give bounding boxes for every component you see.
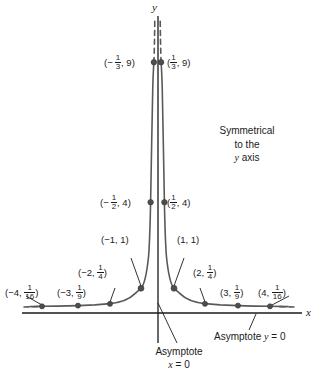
- point-label-pos3: (3, 19): [220, 284, 243, 301]
- data-point-posthird[interactable]: [158, 59, 164, 65]
- asymptote-x-word: Asymptote: [155, 346, 202, 357]
- minus-sign: −: [81, 267, 87, 278]
- data-point-neg3[interactable]: [75, 303, 80, 308]
- fraction-one-half: 12: [170, 194, 176, 211]
- symmetry-note: Symmetrical to the y axis: [206, 124, 288, 165]
- point-label-neg4: (−4, 116): [5, 284, 38, 301]
- graph-plot-area: #plot path{fill:none;stroke:#595959;stro…: [0, 0, 322, 378]
- figure-canvas: #plot path{fill:none;stroke:#595959;stro…: [0, 0, 322, 378]
- fraction-one-half: 12: [111, 194, 117, 211]
- fraction-one-fourth: 14: [207, 264, 213, 281]
- minus-sign: −: [8, 287, 14, 298]
- asymptote-x-label: Asymptote x = 0: [144, 345, 214, 371]
- point-label-poshalf: (12, 4): [167, 194, 190, 211]
- leader-line-asymptote-x: [158, 303, 177, 343]
- data-point-pos2[interactable]: [202, 301, 207, 306]
- leader-line-neg1: [131, 258, 141, 286]
- fraction-one-ninth: 19: [76, 284, 82, 301]
- minus-sign: −: [60, 287, 66, 298]
- leader-line-asymptote-y: [249, 314, 256, 330]
- point-label-pos1: (1, 1): [177, 234, 199, 245]
- data-point-neghalf[interactable]: [148, 199, 154, 205]
- fraction-one-third: 13: [170, 54, 176, 71]
- leader-line-neg2: [110, 288, 115, 302]
- data-point-pos3[interactable]: [235, 303, 240, 308]
- symmetry-note-line2: to the: [234, 139, 259, 150]
- point-label-pos4: (4, 116): [258, 284, 286, 301]
- minus-sign: −: [103, 197, 109, 208]
- symmetry-note-line1: Symmetrical: [219, 125, 274, 136]
- asymptote-y-label: Asymptote y = 0: [214, 330, 285, 343]
- point-label-pos2: (2, 14): [193, 264, 216, 281]
- x-axis-label: x: [306, 306, 311, 319]
- point-label-posthird: (13, 9): [167, 54, 190, 71]
- y-axis-label: y: [152, 1, 157, 14]
- asymptote-y-word: Asymptote: [214, 331, 264, 342]
- point-label-neg2: (−2, 14): [78, 264, 107, 281]
- fraction-one-ninth: 19: [234, 284, 240, 301]
- leader-line-pos2: [200, 288, 205, 302]
- minus-sign: −: [107, 57, 113, 68]
- point-label-neg1: (−1, 1): [101, 234, 129, 245]
- symmetry-note-line3-suffix: axis: [239, 152, 260, 163]
- data-point-neg4[interactable]: [39, 304, 44, 309]
- fraction-one-sixteenth: 116: [24, 284, 35, 301]
- point-label-neg3: (−3, 19): [57, 284, 86, 301]
- fraction-one-sixteenth: 116: [272, 284, 283, 301]
- point-label-negthird: (− 13, 9): [104, 54, 135, 71]
- fraction-one-third: 13: [115, 54, 121, 71]
- asymptote-x-value: = 0: [173, 359, 190, 370]
- data-point-neg1[interactable]: [138, 285, 144, 291]
- leader-line-pos1: [174, 258, 184, 286]
- data-point-pos4[interactable]: [267, 304, 272, 309]
- data-point-neg2[interactable]: [107, 301, 112, 306]
- asymptote-y-value: = 0: [268, 331, 285, 342]
- fraction-one-fourth: 14: [97, 264, 103, 281]
- curve-right-dashed-extension: [160, 20, 161, 62]
- data-point-pos1[interactable]: [171, 285, 177, 291]
- data-point-negthird[interactable]: [151, 59, 157, 65]
- data-point-markers-group: [39, 59, 272, 309]
- curve-left-dashed-extension: [154, 20, 155, 62]
- point-label-neghalf: (− 12, 4): [100, 194, 131, 211]
